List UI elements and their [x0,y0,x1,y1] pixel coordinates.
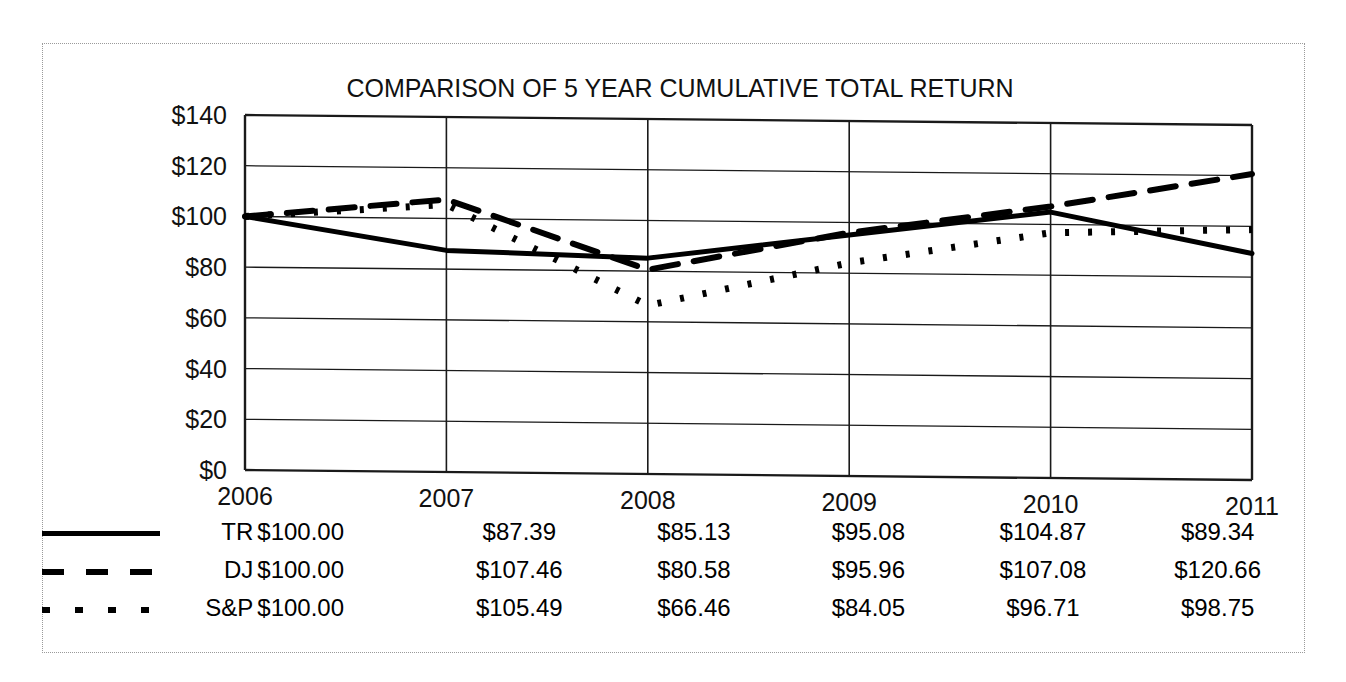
y-axis-tick-label: $120 [171,152,227,180]
data-cell: $100.00 [253,589,432,627]
gridline-horizontal [245,369,1252,379]
data-cell: $80.58 [607,551,781,589]
table-row: DJ$100.00$107.46$80.58$95.96$107.08$120.… [42,551,1305,589]
chart-title: COMPARISON OF 5 YEAR CUMULATIVE TOTAL RE… [346,74,1013,102]
gridline-horizontal [245,318,1252,328]
data-cell: $100.00 [253,551,432,589]
series-line-sandp [245,205,1252,306]
legend-marker-cell [42,551,192,589]
y-axis-tick-label: $60 [185,304,227,332]
x-axis-tick-label: 2008 [620,486,676,514]
y-axis-tick-label: $140 [171,101,227,129]
x-axis-tick-label: 2006 [217,482,273,510]
dashed-line-marker [42,569,160,575]
data-cell: $98.75 [1130,589,1305,627]
series-name-label: TR [192,513,254,551]
data-cell: $96.71 [956,589,1131,627]
data-cell: $85.13 [607,513,781,551]
data-cell: $84.05 [781,589,955,627]
legend-data-table: TR$100.00$87.39$85.13$95.08$104.87$89.34… [42,513,1305,627]
data-cell: $105.49 [432,589,607,627]
series-data-table: TR$100.00$87.39$85.13$95.08$104.87$89.34… [42,513,1305,627]
data-cell: $89.34 [1130,513,1305,551]
data-cell: $95.08 [781,513,955,551]
data-cell: $107.46 [432,551,607,589]
table-row: TR$100.00$87.39$85.13$95.08$104.87$89.34 [42,513,1305,551]
y-axis-tick-labels: $0$20$40$60$80$100$120$140 [171,101,227,484]
y-axis-tick-label: $0 [199,456,227,484]
x-axis-tick-label: 2009 [821,488,877,516]
data-cell: $107.08 [956,551,1131,589]
series-name-label: S&P [192,589,254,627]
chart-series-lines [245,174,1252,305]
data-cell: $95.96 [781,551,955,589]
gridline-horizontal [245,267,1252,277]
gridline-horizontal [245,419,1252,429]
y-axis-tick-label: $40 [185,355,227,383]
chart-gridlines [245,115,1252,480]
solid-line-marker [42,531,160,536]
x-axis-tick-label: 2007 [419,484,475,512]
data-cell: $104.87 [956,513,1131,551]
data-cell: $87.39 [432,513,607,551]
series-name-label: DJ [192,551,254,589]
gridline-horizontal [245,166,1252,176]
gridline-horizontal [245,470,1252,480]
dotted-line-marker [42,607,160,613]
legend-marker-cell [42,589,192,627]
data-cell: $66.46 [607,589,781,627]
data-cell: $100.00 [253,513,432,551]
gridline-horizontal [245,115,1252,125]
legend-marker-cell [42,513,192,551]
table-row: S&P$100.00$105.49$66.46$84.05$96.71$98.7… [42,589,1305,627]
y-axis-tick-label: $20 [185,405,227,433]
y-axis-tick-label: $80 [185,253,227,281]
data-cell: $120.66 [1130,551,1305,589]
y-axis-tick-label: $100 [171,202,227,230]
